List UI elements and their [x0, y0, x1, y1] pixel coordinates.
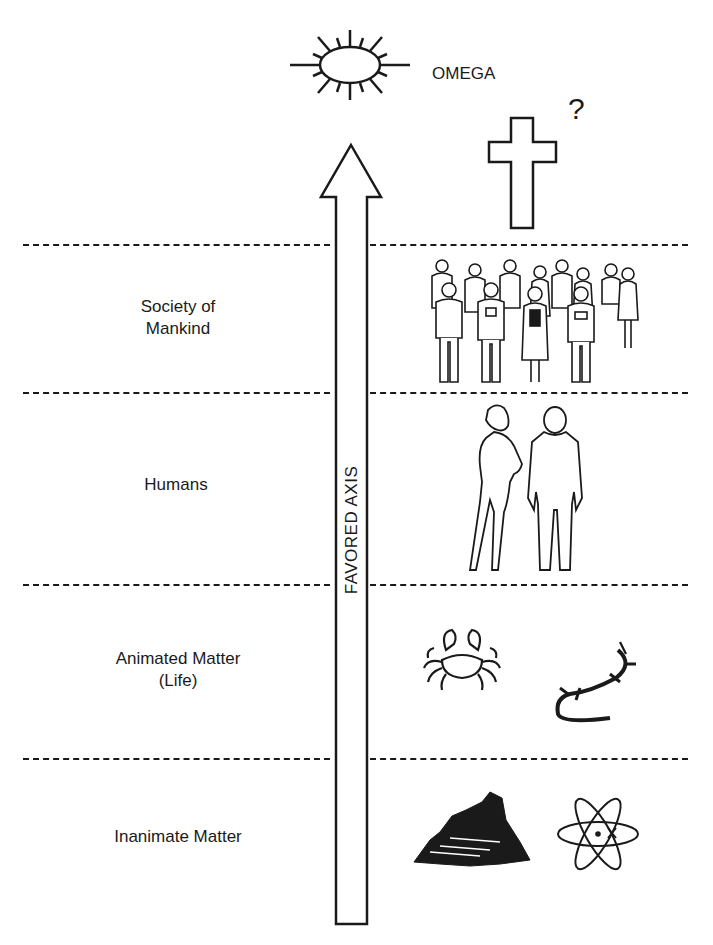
separator-left-3 [23, 584, 330, 586]
level-label-society: Society of Mankind [38, 296, 318, 340]
crab-and-lizard-icon [410, 620, 650, 730]
sun-oval-icon [280, 25, 420, 105]
cross-icon [487, 116, 559, 230]
omega-label: OMEGA [432, 64, 495, 84]
separator-right-2 [370, 392, 688, 394]
man-and-woman-icon [460, 402, 590, 577]
level-label-humans: Humans [36, 474, 316, 496]
level-label-society-line1: Society of [38, 296, 318, 318]
question-mark: ? [568, 92, 585, 126]
level-label-inanimate-line1: Inanimate Matter [38, 826, 318, 848]
separator-right-1 [370, 244, 688, 246]
separator-right-3 [370, 584, 688, 586]
separator-left-4 [23, 758, 330, 760]
level-label-society-line2: Mankind [38, 318, 318, 340]
separator-left-1 [23, 244, 330, 246]
level-label-humans-line1: Humans [36, 474, 316, 496]
level-label-life: Animated Matter (Life) [38, 648, 318, 692]
level-label-inanimate: Inanimate Matter [38, 826, 318, 848]
separator-right-4 [370, 758, 688, 760]
rock-and-atom-icon [410, 790, 650, 880]
favored-axis-label: FAVORED AXIS [342, 420, 362, 640]
level-label-life-line2: (Life) [38, 670, 318, 692]
crowd-of-people-icon [420, 258, 635, 386]
atom-icon [558, 793, 638, 874]
level-label-life-line1: Animated Matter [38, 648, 318, 670]
separator-left-2 [23, 392, 330, 394]
